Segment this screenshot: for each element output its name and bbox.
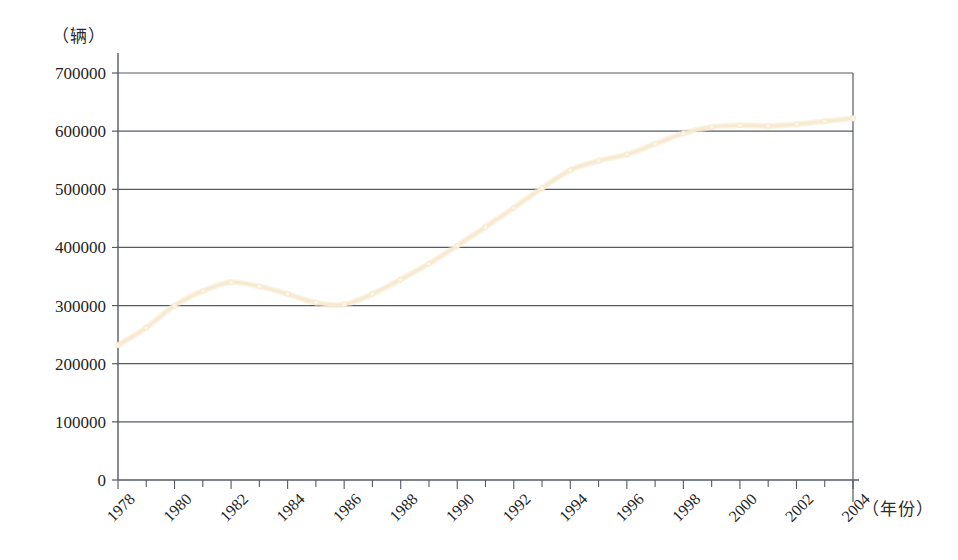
series-data-point (540, 186, 545, 191)
series-data-point (455, 243, 460, 248)
y-tick-label: 0 (98, 471, 107, 490)
series-data-point (144, 325, 149, 330)
series-data-point (398, 277, 403, 282)
x-tick-label: 2002 (782, 490, 817, 525)
series-data-point (427, 261, 432, 266)
series-data-point (822, 119, 827, 124)
series-data-point (681, 131, 686, 136)
line-chart-plot: 0100000200000300000400000500000600000700… (0, 0, 958, 560)
chart-container: （辆） 010000020000030000040000050000060000… (0, 0, 958, 560)
series-data-point (483, 225, 488, 230)
y-tick-label: 600000 (55, 122, 106, 141)
x-tick-label: 2000 (725, 490, 760, 525)
y-tick-label: 400000 (55, 238, 106, 257)
series-data-point (596, 158, 601, 163)
x-tick-label: 1990 (443, 490, 478, 525)
series-data-point (342, 302, 347, 307)
series-data-point (200, 289, 205, 294)
x-tick-label: 1994 (556, 490, 591, 525)
x-tick-mark-group (118, 480, 853, 489)
data-series-group (116, 116, 856, 348)
x-tick-label: 1986 (330, 490, 365, 525)
series-data-point (709, 125, 714, 130)
series-data-point (511, 205, 516, 210)
series-data-point (285, 292, 290, 297)
series-data-point (172, 303, 177, 308)
series-line-halo (118, 118, 853, 345)
series-line (118, 118, 853, 345)
series-data-point (624, 152, 629, 157)
y-tick-label: 300000 (55, 297, 106, 316)
y-tick-label: 200000 (55, 355, 106, 374)
axis-lines-group (118, 53, 859, 502)
x-tick-label: 1998 (669, 490, 704, 525)
x-tick-label: 1992 (499, 490, 534, 525)
y-tick-label-group: 0100000200000300000400000500000600000700… (55, 64, 118, 490)
series-data-point (313, 300, 318, 305)
series-data-point (653, 142, 658, 147)
x-tick-label: 1982 (217, 490, 252, 525)
series-data-point (229, 280, 234, 285)
x-tick-label: 1988 (386, 490, 421, 525)
series-data-point (370, 292, 375, 297)
x-tick-label: 1980 (160, 490, 195, 525)
series-data-point (568, 168, 573, 173)
series-data-point (766, 124, 771, 129)
x-axis-title: （年份） (862, 495, 934, 520)
series-data-point (851, 116, 856, 121)
series-data-point (738, 123, 743, 128)
series-data-point (794, 122, 799, 127)
series-data-point (116, 343, 121, 348)
y-tick-label: 700000 (55, 64, 106, 83)
x-tick-label: 1984 (273, 490, 308, 525)
y-tick-label: 500000 (55, 180, 106, 199)
x-tick-label: 1978 (103, 490, 138, 525)
y-tick-label: 100000 (55, 413, 106, 432)
series-data-point (257, 284, 262, 289)
x-tick-label: 1996 (612, 490, 647, 525)
x-tick-label-group: 1978198019821984198619881990199219941996… (103, 490, 873, 525)
